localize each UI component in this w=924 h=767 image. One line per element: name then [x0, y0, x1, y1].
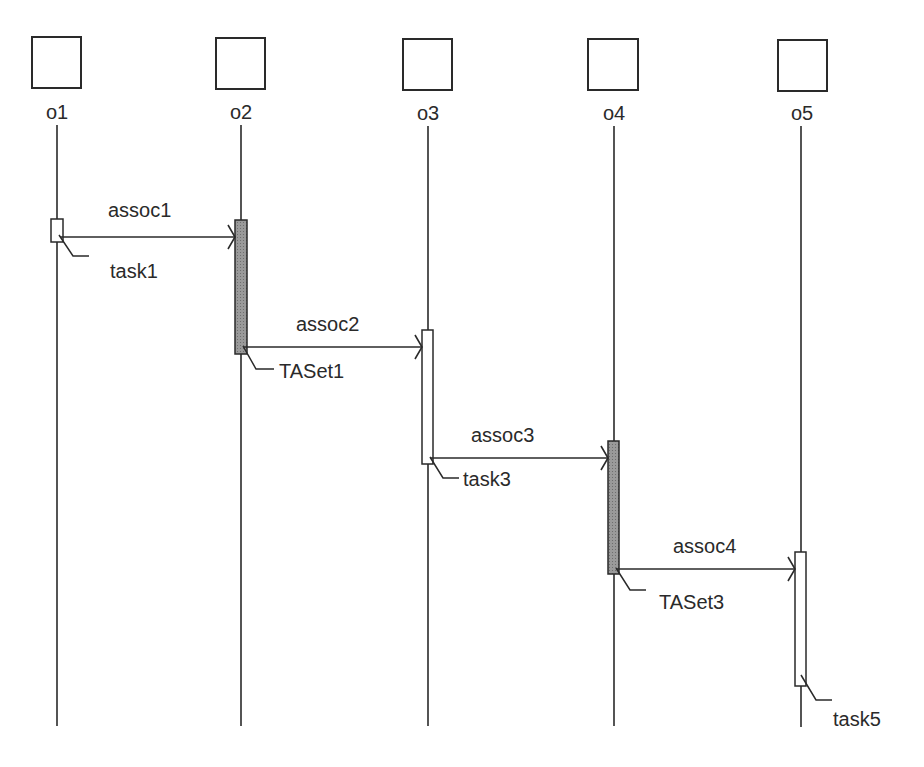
message-label: assoc3 — [471, 424, 534, 446]
activation-task5 — [795, 552, 806, 686]
message-label: assoc4 — [673, 535, 736, 557]
leader-line — [430, 457, 459, 478]
object-label: o4 — [603, 102, 625, 124]
activation-taset1 — [235, 220, 247, 354]
activation-label: task3 — [463, 468, 511, 490]
message-label: assoc2 — [296, 313, 359, 335]
object-o2: o2 — [216, 38, 265, 726]
message-assoc2: assoc2 — [244, 313, 422, 359]
activation-task3 — [422, 330, 433, 464]
activation-label: TASet1 — [279, 360, 344, 382]
object-box — [588, 39, 638, 90]
object-label: o2 — [230, 101, 252, 123]
activation-label-task5: task5 — [801, 675, 881, 730]
object-box — [403, 39, 452, 90]
activation-label: task1 — [110, 260, 158, 282]
activation-label: TASet3 — [659, 591, 724, 613]
message-assoc3: assoc3 — [430, 424, 608, 470]
object-o4: o4 — [588, 39, 638, 726]
activation-label-task3: task3 — [430, 457, 511, 490]
message-label: assoc1 — [108, 199, 171, 221]
object-label: o3 — [417, 102, 439, 124]
object-box — [216, 38, 265, 89]
leader-line — [616, 568, 646, 590]
object-box — [778, 40, 827, 91]
activation-label-taset3: TASet3 — [616, 568, 724, 613]
message-assoc1: assoc1 — [60, 199, 235, 249]
object-label: o5 — [791, 102, 813, 124]
object-label: o1 — [46, 101, 68, 123]
activation-label-taset1: TASet1 — [243, 346, 344, 382]
sequence-diagram: o1 o2 o3 o4 o5 assoc1 assoc2 ass — [0, 0, 924, 767]
object-box — [32, 37, 81, 88]
object-o1: o1 — [32, 37, 81, 726]
activation-label: task5 — [833, 708, 881, 730]
activation-taset3 — [608, 441, 619, 574]
activation-label-task1: task1 — [59, 235, 158, 282]
message-assoc4: assoc4 — [617, 535, 795, 581]
